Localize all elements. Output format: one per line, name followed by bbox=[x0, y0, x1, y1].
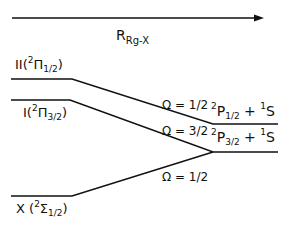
asym1-term2: S bbox=[266, 103, 275, 119]
asym1-sub: 1/2 bbox=[225, 111, 239, 121]
state-I-roman: I( bbox=[23, 105, 32, 120]
asym2-sup2: 1 bbox=[260, 127, 266, 137]
state-X-sym: Σ bbox=[40, 201, 48, 216]
axis-label: RRg-X bbox=[116, 28, 149, 42]
asymptote-P12-label: 2P1/2 + 1S bbox=[211, 104, 275, 118]
arrow-head-icon bbox=[254, 15, 264, 22]
omega-label-2: Ω = 3/2 bbox=[162, 125, 208, 137]
asym2-plus: + bbox=[240, 129, 261, 145]
asym2-term2: S bbox=[266, 129, 275, 145]
state-II-label: II(2Π1/2) bbox=[15, 58, 63, 71]
asym2-term: P bbox=[217, 129, 225, 145]
asym1-term: P bbox=[217, 103, 225, 119]
asym2-sub: 3/2 bbox=[225, 137, 239, 147]
omega-label-3: Ω = 1/2 bbox=[162, 171, 208, 183]
state-I-label: I(2Π3/2) bbox=[23, 106, 67, 119]
axis-label-sub: Rg-X bbox=[126, 35, 149, 46]
state-II-close: ) bbox=[58, 57, 63, 72]
state-X-sub: 1/2 bbox=[48, 208, 62, 218]
axis-label-main: R bbox=[116, 27, 126, 43]
state-II-sym: Π bbox=[33, 57, 43, 72]
state-I-close: ) bbox=[62, 105, 67, 120]
state-X-sup: 2 bbox=[34, 199, 40, 209]
omega-label-1: Ω = 1/2 bbox=[162, 99, 208, 111]
state-II-sup: 2 bbox=[28, 55, 34, 65]
asym1-sup: 2 bbox=[211, 101, 217, 111]
asymptote-P32-label: 2P3/2 + 1S bbox=[211, 130, 275, 144]
asym2-sup: 2 bbox=[211, 127, 217, 137]
state-I-sub: 3/2 bbox=[47, 112, 61, 122]
state-II-sub: 1/2 bbox=[43, 64, 57, 74]
asym1-plus: + bbox=[240, 103, 261, 119]
state-I-sym: Π bbox=[38, 105, 48, 120]
asym1-sup2: 1 bbox=[260, 101, 266, 111]
state-II-roman: II( bbox=[15, 57, 28, 72]
state-X-label: X (2Σ1/2) bbox=[16, 202, 68, 215]
state-I-sup: 2 bbox=[32, 103, 38, 113]
state-X-close: ) bbox=[63, 201, 68, 216]
state-X-roman: X ( bbox=[16, 201, 34, 216]
